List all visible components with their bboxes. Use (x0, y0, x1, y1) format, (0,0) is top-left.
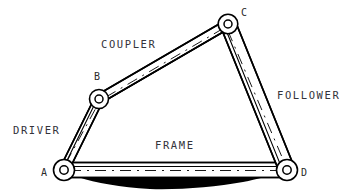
joint-label-a: A (41, 167, 47, 178)
joint-label-b: B (94, 71, 100, 82)
driver-centerline (66, 106, 97, 163)
joint-a (54, 160, 75, 181)
joint-label-d: D (301, 167, 307, 178)
link-label-coupler: COUPLER (101, 38, 156, 50)
link-label-frame: FRAME (155, 139, 195, 151)
link-label-follower: FOLLOWER (277, 89, 340, 101)
link-frame (64, 163, 287, 178)
joint-label-c: C (241, 7, 247, 18)
linkage-drawing: A B C D DRIVER COUPLER FOLLOWER FRAME (0, 0, 350, 194)
link-label-driver: DRIVER (13, 124, 61, 136)
joint-c (218, 14, 238, 34)
link-coupler (95, 17, 232, 107)
joint-b (90, 90, 109, 109)
four-bar-linkage-diagram: A B C D DRIVER COUPLER FOLLOWER FRAME (0, 0, 350, 194)
joint-d (277, 160, 298, 181)
